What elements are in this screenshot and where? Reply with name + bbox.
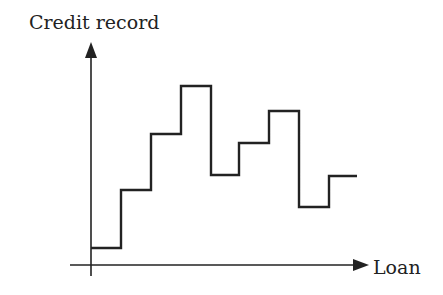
step-chart	[0, 0, 443, 295]
y-axis-arrow-icon	[85, 42, 97, 58]
axes	[70, 42, 369, 276]
credit-record-step-line	[91, 86, 357, 248]
x-axis-arrow-icon	[353, 259, 369, 271]
y-axis-label: Credit record	[29, 11, 159, 33]
x-axis-label: Loan	[373, 256, 421, 278]
